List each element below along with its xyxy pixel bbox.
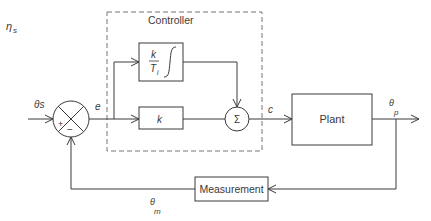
measurement-block: Measurement: [195, 177, 268, 201]
setpoint-label: θs: [34, 99, 44, 110]
proportional-block: k: [139, 107, 183, 129]
sum-block: Σ: [225, 107, 249, 131]
measured-label-main: θ: [150, 197, 155, 207]
corner-label-main: η: [6, 20, 12, 32]
comparator-junction: + −: [53, 101, 89, 137]
block-diagram: η s Controller θs + − e k T i k Σ: [0, 0, 431, 221]
corner-label: η s: [6, 20, 17, 35]
output-label-sub: p: [393, 108, 399, 117]
integral-block: k T i: [139, 43, 183, 81]
sum-label: Σ: [234, 114, 240, 125]
corner-label-sub: s: [13, 26, 17, 35]
feedback-to-comparator: [71, 137, 195, 189]
measurement-label: Measurement: [199, 183, 263, 195]
minus-sign: −: [67, 124, 73, 135]
output-label-main: θ: [389, 98, 394, 108]
plus-sign: +: [58, 119, 63, 129]
plant-block: Plant: [292, 94, 372, 145]
measured-label-sub: m: [154, 207, 161, 216]
branch-to-integral: [114, 62, 139, 119]
error-label: e: [95, 101, 101, 112]
plant-label: Plant: [319, 113, 344, 125]
control-label: c: [268, 104, 273, 115]
integral-to-sum: [183, 62, 237, 107]
integral-denominator: T: [150, 63, 157, 74]
controller-label: Controller: [148, 14, 194, 26]
